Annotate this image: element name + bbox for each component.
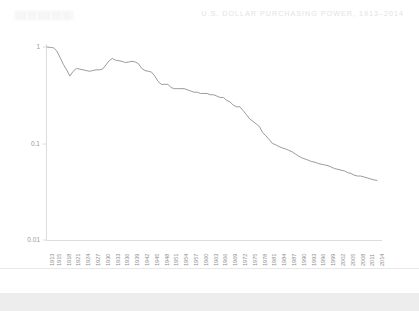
x-axis-label-1972: 1972	[242, 254, 248, 266]
x-axis-label-1963: 1963	[213, 254, 219, 266]
plot-area: 1 0.1 0.01 19131915191819211924192719301…	[0, 0, 419, 268]
x-axis-label-1996: 1996	[320, 254, 326, 266]
x-axis-label-1999: 1999	[330, 254, 336, 266]
x-axis-label-1960: 1960	[203, 254, 209, 266]
footer: Source: Global Financial Data, Shiller	[0, 269, 419, 293]
x-axis-label-1981: 1981	[271, 254, 277, 266]
y-axis-label-0-1: 0.1	[14, 140, 40, 147]
x-axis-label-1913: 1913	[49, 254, 55, 266]
x-axis-label-1924: 1924	[85, 254, 91, 266]
x-axis-label-1990: 1990	[301, 254, 307, 266]
x-axis-label-1969: 1969	[232, 254, 238, 266]
data-series-line	[47, 47, 377, 180]
x-axis-label-1942: 1942	[144, 254, 150, 266]
x-axis-label-2011: 2011	[369, 254, 375, 266]
x-axis-label-1918: 1918	[66, 254, 72, 266]
x-axis-label-1984: 1984	[281, 254, 287, 266]
bottom-band	[0, 293, 419, 311]
x-axis-label-1978: 1978	[262, 254, 268, 266]
x-axis-label-1987: 1987	[291, 254, 297, 266]
x-axis-label-1993: 1993	[311, 254, 317, 266]
x-axis-label-1954: 1954	[183, 254, 189, 266]
x-axis-label-1930: 1930	[105, 254, 111, 266]
x-axis-label-2008: 2008	[360, 254, 366, 266]
x-axis-tick-labels: 1913191519181921192419271930193319361939…	[0, 244, 419, 268]
y-axis-label-0-01: 0.01	[14, 236, 40, 243]
x-axis-label-1945: 1945	[154, 254, 160, 266]
x-axis-label-1915: 1915	[56, 254, 62, 266]
x-axis-label-1936: 1936	[124, 254, 130, 266]
x-axis-label-1927: 1927	[95, 254, 101, 266]
x-axis-label-1966: 1966	[222, 254, 228, 266]
x-axis-label-1933: 1933	[115, 254, 121, 266]
chart-page: U.S. DOLLAR PURCHASING POWER, 1913–2014 …	[0, 0, 419, 311]
x-axis-label-1975: 1975	[252, 254, 258, 266]
x-axis-label-1921: 1921	[75, 254, 81, 266]
x-axis-label-1939: 1939	[134, 254, 140, 266]
x-axis-label-1951: 1951	[173, 254, 179, 266]
x-axis-label-1957: 1957	[193, 254, 199, 266]
x-axis-label-1948: 1948	[164, 254, 170, 266]
x-axis-label-2014: 2014	[379, 254, 385, 266]
x-axis-label-2002: 2002	[340, 254, 346, 266]
chart-svg	[0, 0, 419, 268]
y-axis-label-1: 1	[14, 43, 40, 50]
x-axis-label-2005: 2005	[350, 254, 356, 266]
